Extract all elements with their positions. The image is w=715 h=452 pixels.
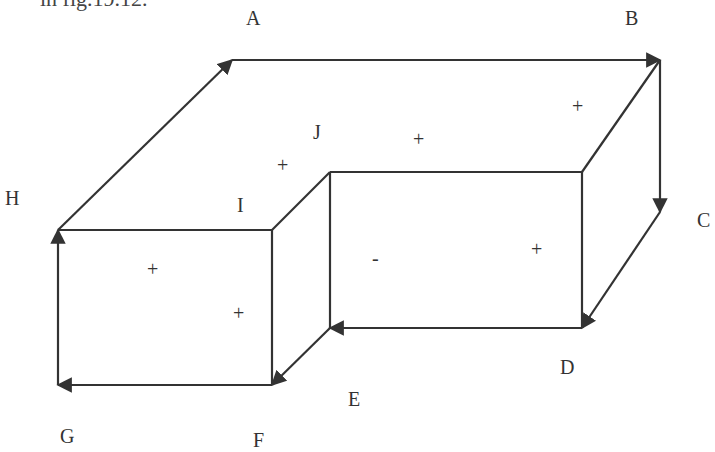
l-shaped-block-diagram	[0, 0, 715, 452]
vertex-label-h: H	[5, 188, 19, 208]
vertex-label-e: E	[348, 389, 360, 409]
sign-top-left: +	[277, 155, 288, 175]
sign-top-middle: +	[413, 129, 424, 149]
vertex-label-f: F	[253, 430, 264, 450]
sign-right-face: +	[531, 239, 542, 259]
vertex-label-d: D	[560, 357, 574, 377]
vertex-label-b: B	[625, 8, 638, 28]
edge-e-f	[272, 328, 330, 385]
sign-left-front-1: +	[147, 259, 158, 279]
edge-c-d	[582, 212, 660, 328]
vertex-label-j: J	[313, 122, 321, 142]
vertex-label-g: G	[60, 426, 74, 446]
vertex-label-a: A	[246, 8, 260, 28]
sign-inner-face: -	[372, 248, 379, 268]
edge-i-j	[272, 172, 330, 230]
sign-left-front-2: +	[233, 303, 244, 323]
sign-top-right: +	[572, 96, 583, 116]
edge-h-a	[58, 60, 232, 230]
vertex-label-c: C	[697, 210, 710, 230]
edge-k-b	[582, 60, 660, 172]
vertex-label-i: I	[237, 195, 244, 215]
